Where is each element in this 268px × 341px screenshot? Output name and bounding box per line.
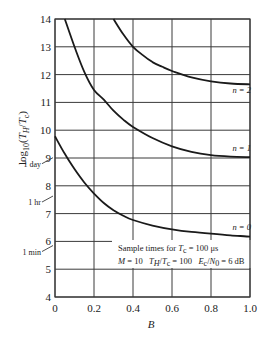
curve-label: n = 0 [232, 222, 251, 232]
x-tick-label: 0.8 [204, 302, 218, 314]
x-tick-label: 0 [52, 302, 58, 314]
y-tick-label: 7 [46, 208, 52, 220]
x-tick-label: 0.2 [87, 302, 101, 314]
y-tick-label: 13 [40, 41, 52, 53]
x-tick-label: 1.0 [243, 302, 257, 314]
y-tick-label: 10 [40, 124, 52, 136]
y-tick-label: 9 [46, 152, 52, 164]
y-tick-labels: 4567891011121314 [40, 13, 52, 303]
x-tick-labels: 00.20.40.60.81.0 [52, 302, 257, 314]
y-axis-label: log10(TH/Tc) [16, 111, 31, 165]
y-tick-label: 14 [40, 13, 52, 25]
curve-n0 [55, 136, 250, 236]
y-tick-label: 4 [46, 291, 52, 303]
data-curves [55, 19, 250, 237]
y-tick-label: 11 [40, 96, 51, 108]
curve-label: n = 2 [232, 85, 251, 95]
chart: n = 2n = 1n = 0 4567891011121314 00.20.4… [0, 0, 268, 341]
x-tick-label: 0.4 [126, 302, 140, 314]
y-tick-label: 8 [46, 180, 52, 192]
y-tick-label: 6 [46, 235, 52, 247]
curve-label: n = 1 [232, 143, 251, 153]
x-tick-label: 0.6 [165, 302, 179, 314]
y-tick-label: 5 [46, 263, 52, 275]
y-tick-label: 12 [40, 69, 51, 81]
time-marker-label: 1 hr [28, 198, 41, 207]
x-axis-label: B [148, 318, 155, 330]
time-marker-label: 1 min [23, 248, 41, 257]
time-marker-tick [42, 196, 53, 202]
curve-n1 [65, 19, 250, 157]
